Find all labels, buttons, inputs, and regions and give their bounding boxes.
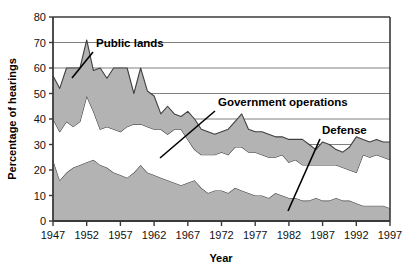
y-tick-label: 0 <box>40 215 46 227</box>
x-tick-label: 1947 <box>41 229 65 241</box>
x-axis-title: Year <box>209 252 233 264</box>
x-tick-label: 1962 <box>142 229 166 241</box>
y-tick-label: 50 <box>34 88 46 100</box>
y-tick-label: 80 <box>34 11 46 23</box>
x-tick-label: 1992 <box>344 229 368 241</box>
x-tick-label: 1977 <box>243 229 267 241</box>
y-axis-title: Percentage of hearings <box>6 58 18 180</box>
x-tick-label: 1957 <box>108 229 132 241</box>
y-tick-label: 60 <box>34 62 46 74</box>
x-tick-label: 1987 <box>310 229 334 241</box>
x-tick-label: 1972 <box>209 229 233 241</box>
x-tick-label: 1982 <box>277 229 301 241</box>
x-tick-label: 1997 <box>378 229 402 241</box>
stacked-area-chart: 01020304050607080 1947195219571962196719… <box>0 0 411 271</box>
y-tick-label: 30 <box>34 139 46 151</box>
annotation-label: Government operations <box>218 96 348 108</box>
y-tick-label: 70 <box>34 37 46 49</box>
x-tick-label: 1952 <box>74 229 98 241</box>
y-axis-tick-labels: 01020304050607080 <box>34 11 46 227</box>
annotation-label: Defense <box>322 124 367 136</box>
x-tick-label: 1967 <box>176 229 200 241</box>
y-tick-label: 20 <box>34 164 46 176</box>
x-axis-tick-labels: 1947195219571962196719721977198219871992… <box>41 229 402 241</box>
y-tick-label: 10 <box>34 190 46 202</box>
y-tick-label: 40 <box>34 113 46 125</box>
annotation-label: Public lands <box>96 37 164 49</box>
chart-container: 01020304050607080 1947195219571962196719… <box>0 0 411 271</box>
